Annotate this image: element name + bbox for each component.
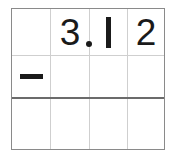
answer-row (12, 99, 164, 149)
answer-operator-cell[interactable] (12, 99, 51, 149)
minuend-ones-digit: 3 (60, 14, 81, 51)
minuend-tenths-cell[interactable] (90, 9, 128, 55)
subtrahend-row (12, 56, 164, 99)
answer-ones-cell[interactable] (51, 99, 90, 149)
minuend-tenths-digit (106, 17, 111, 48)
answer-hundredths-cell[interactable] (128, 99, 164, 149)
minuend-hundredths-cell[interactable]: 2 (128, 9, 164, 55)
subtrahend-operator-cell[interactable] (12, 56, 51, 97)
answer-tenths-cell[interactable] (90, 99, 128, 149)
subtrahend-ones-cell[interactable] (51, 56, 90, 97)
subtraction-worksheet: 3 2 (0, 0, 172, 161)
minuend-hundredths-digit: 2 (136, 14, 157, 51)
minus-icon (20, 74, 43, 79)
minuend-row: 3 2 (12, 9, 164, 56)
minuend-operator-cell[interactable] (12, 9, 51, 55)
subtrahend-hundredths-cell[interactable] (128, 56, 164, 97)
calculation-grid: 3 2 (11, 8, 165, 150)
subtrahend-tenths-cell[interactable] (90, 56, 128, 97)
minuend-ones-cell[interactable]: 3 (51, 9, 90, 55)
